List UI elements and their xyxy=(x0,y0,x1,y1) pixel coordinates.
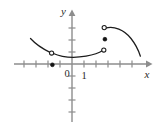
left-branch-curve xyxy=(31,39,51,53)
endpoint-markers xyxy=(50,26,107,67)
y-axis-label: y xyxy=(60,5,66,17)
middle-branch-curve xyxy=(53,51,103,58)
right-lower-open-endpoint-marker xyxy=(102,48,106,52)
left-open-endpoint-marker xyxy=(50,51,54,55)
right-upper-open-endpoint-marker xyxy=(102,26,106,30)
x-axis-arrowhead xyxy=(146,61,153,68)
x-tick-label-one: 1 xyxy=(81,70,86,81)
axis-labels: y x 0 1 xyxy=(60,5,150,81)
graph-figure: y x 0 1 xyxy=(0,0,160,127)
x-axis-label: x xyxy=(144,68,150,80)
right-closed-point-marker xyxy=(103,37,107,41)
function-curves xyxy=(31,27,141,57)
coordinate-plane-svg: y x 0 1 xyxy=(0,0,160,127)
left-closed-point-marker xyxy=(51,63,55,67)
right-branch-curve xyxy=(105,27,140,56)
y-axis-arrowhead xyxy=(69,10,76,17)
origin-tick-label: 0 xyxy=(64,68,69,79)
